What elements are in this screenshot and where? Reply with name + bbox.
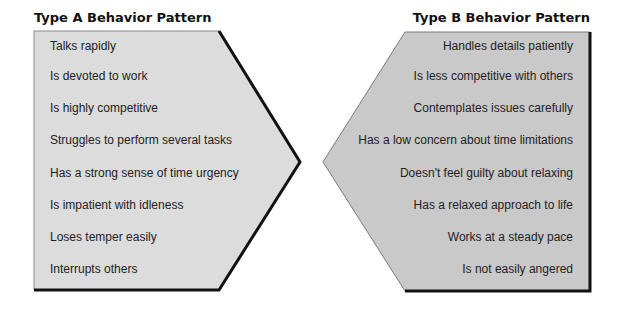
type-b-item: Works at a steady pace bbox=[358, 221, 573, 253]
type-a-item: Loses temper easily bbox=[50, 221, 239, 253]
type-a-item: Interrupts others bbox=[50, 253, 239, 285]
type-a-item: Is devoted to work bbox=[50, 60, 239, 92]
type-a-item: Talks rapidly bbox=[50, 32, 239, 60]
type-a-list: Talks rapidly Is devoted to work Is high… bbox=[50, 32, 239, 285]
type-a-item: Is highly competitive bbox=[50, 92, 239, 124]
type-b-item: Doesn't feel guilty about relaxing bbox=[358, 157, 573, 189]
type-a-item: Is impatient with idleness bbox=[50, 189, 239, 221]
type-b-item: Is less competitive with others bbox=[358, 60, 573, 92]
type-b-list: Handles details patiently Is less compet… bbox=[358, 32, 573, 285]
type-b-item: Is not easily angered bbox=[358, 253, 573, 285]
type-b-item: Has a relaxed approach to life bbox=[358, 189, 573, 221]
type-b-item: Has a low concern about time limitations bbox=[358, 124, 573, 156]
type-a-item: Has a strong sense of time urgency bbox=[50, 157, 239, 189]
type-a-item: Struggles to perform several tasks bbox=[50, 124, 239, 156]
type-b-item: Contemplates issues carefully bbox=[358, 92, 573, 124]
type-b-item: Handles details patiently bbox=[358, 32, 573, 60]
